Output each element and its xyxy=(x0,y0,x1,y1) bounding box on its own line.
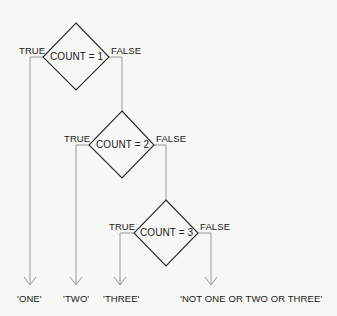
edge-d3-false xyxy=(198,233,211,285)
condition-d2: COUNT = 2 xyxy=(96,140,149,150)
condition-d1: COUNT = 1 xyxy=(50,52,103,62)
edge-d2-false xyxy=(154,145,166,200)
output-three: 'THREE' xyxy=(103,294,140,304)
edge-d1-false xyxy=(109,57,122,111)
edge-d3-true xyxy=(120,233,134,285)
false-label-d1: FALSE xyxy=(111,46,141,56)
output-none: 'NOT ONE OR TWO OR THREE' xyxy=(180,294,322,304)
output-two: 'TWO' xyxy=(63,294,89,304)
false-label-d2: FALSE xyxy=(156,134,186,144)
edge-d1-true xyxy=(30,57,43,285)
edge-d2-true xyxy=(76,145,89,285)
false-label-d3: FALSE xyxy=(200,222,230,232)
true-label-d2: TRUE xyxy=(64,134,90,144)
condition-d3: COUNT = 3 xyxy=(140,228,193,238)
true-label-d3: TRUE xyxy=(109,222,135,232)
true-label-d1: TRUE xyxy=(19,46,45,56)
output-one: 'ONE' xyxy=(17,294,42,304)
flowchart-canvas xyxy=(0,0,337,316)
